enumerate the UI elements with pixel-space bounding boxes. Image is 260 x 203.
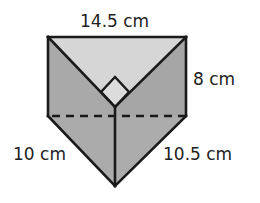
right-leg-label: 10.5 cm <box>163 146 232 163</box>
height-label: 8 cm <box>193 71 235 88</box>
top-edge-label: 14.5 cm <box>80 13 149 30</box>
left-leg-label: 10 cm <box>13 146 66 163</box>
